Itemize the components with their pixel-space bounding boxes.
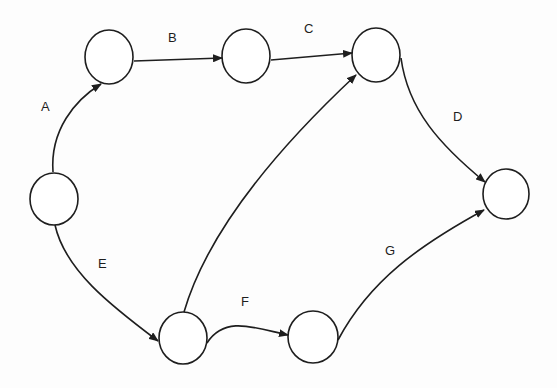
node-3 — [222, 29, 270, 83]
edge-d — [401, 58, 485, 182]
edge-c — [271, 53, 352, 60]
node-4 — [352, 28, 400, 82]
edge-label-f: F — [241, 294, 249, 309]
edge-g — [338, 210, 484, 340]
edge-label-e: E — [98, 256, 107, 271]
edge-b — [134, 58, 222, 61]
edge-label-b: B — [168, 30, 177, 45]
node-2 — [85, 30, 133, 84]
node-5 — [483, 169, 529, 219]
edge-e — [55, 225, 158, 341]
edge-label-a: A — [41, 99, 50, 114]
edge-label-d: D — [453, 109, 462, 124]
node-6 — [159, 312, 207, 364]
edge-label-g: G — [385, 243, 395, 258]
diagram-svg: A B C D E F G — [0, 0, 557, 388]
edge-dummy — [184, 75, 356, 312]
network-diagram: A B C D E F G — [0, 0, 557, 388]
edge-f — [207, 326, 288, 343]
node-7 — [288, 311, 338, 363]
edge-label-c: C — [304, 21, 313, 36]
edge-a — [53, 84, 101, 172]
node-1 — [30, 173, 78, 225]
